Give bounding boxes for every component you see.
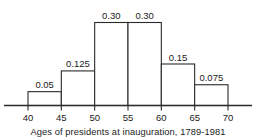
x-axis-ticks xyxy=(28,106,228,111)
x-axis-tick-label: 70 xyxy=(223,112,234,123)
x-axis-tick-label: 60 xyxy=(156,112,167,123)
x-axis-tick-labels: 40455055606570 xyxy=(23,112,234,123)
x-axis-tick-label: 40 xyxy=(23,112,34,123)
x-axis-tick-label: 50 xyxy=(89,112,100,123)
histogram-bar xyxy=(61,71,94,106)
histogram-svg: 0.050.1250.300.300.150.075 4045505560657… xyxy=(0,0,257,140)
x-axis-tick-label: 65 xyxy=(189,112,200,123)
x-axis-tick-label: 45 xyxy=(56,112,67,123)
bars-group xyxy=(28,23,228,106)
histogram-bar xyxy=(28,92,61,106)
histogram-bar xyxy=(195,85,228,106)
histogram-chart: 0.050.1250.300.300.150.075 4045505560657… xyxy=(0,0,257,140)
x-axis-caption: Ages of presidents at inauguration, 1789… xyxy=(30,127,225,137)
bar-value-label: 0.30 xyxy=(102,10,121,21)
histogram-bar xyxy=(161,64,194,106)
bar-value-label: 0.15 xyxy=(169,52,188,63)
bar-value-label: 0.075 xyxy=(199,72,223,83)
histogram-bar xyxy=(95,23,128,106)
bar-value-label: 0.30 xyxy=(135,10,154,21)
histogram-bar xyxy=(128,23,161,106)
bar-value-label: 0.125 xyxy=(66,58,90,69)
bar-value-label: 0.05 xyxy=(35,79,54,90)
x-axis-tick-label: 55 xyxy=(123,112,134,123)
